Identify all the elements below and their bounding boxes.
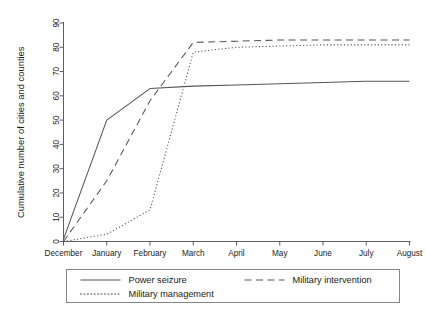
- y-tick-label: 80: [52, 42, 61, 52]
- y-tick-label: 40: [52, 139, 61, 149]
- y-axis-title: Cumulative number of cities and counties: [15, 46, 26, 218]
- y-tick-label: 20: [52, 188, 61, 198]
- x-tick-label: January: [92, 249, 122, 258]
- chart-container: 0102030405060708090 DecemberJanuaryFebru…: [0, 0, 426, 319]
- x-tick-label: March: [182, 249, 205, 258]
- y-tick-label: 0: [52, 239, 61, 244]
- y-tick-label: 30: [52, 164, 61, 174]
- legend-label: Power seizure: [129, 275, 187, 285]
- x-tick-label: June: [314, 249, 332, 258]
- x-axis: DecemberJanuaryFebruaryMarchAprilMayJune…: [45, 242, 423, 259]
- y-tick-label: 50: [52, 115, 61, 125]
- series-line-military-management: [64, 45, 410, 242]
- y-tick-label: 90: [52, 18, 61, 28]
- chart-legend: Power seizureMilitary interventionMilita…: [67, 270, 400, 303]
- line-chart: 0102030405060708090 DecemberJanuaryFebru…: [0, 0, 426, 319]
- x-tick-label: December: [45, 249, 83, 258]
- series-line-military-intervention: [64, 40, 410, 242]
- series-line-power-seizure: [64, 81, 410, 239]
- y-tick-label: 10: [52, 212, 61, 222]
- legend-label: Military management: [129, 289, 215, 299]
- y-axis: 0102030405060708090: [52, 18, 64, 244]
- y-axis-label: Cumulative number of cities and counties: [15, 46, 26, 218]
- x-tick-label: August: [397, 249, 423, 258]
- x-tick-label: April: [228, 249, 245, 258]
- x-tick-label: July: [359, 249, 374, 258]
- x-tick-label: May: [272, 249, 288, 258]
- y-tick-label: 60: [52, 91, 61, 101]
- y-tick-label: 70: [52, 67, 61, 77]
- x-tick-label: February: [134, 249, 168, 258]
- data-series-group: [64, 40, 410, 242]
- legend-label: Military intervention: [293, 275, 372, 285]
